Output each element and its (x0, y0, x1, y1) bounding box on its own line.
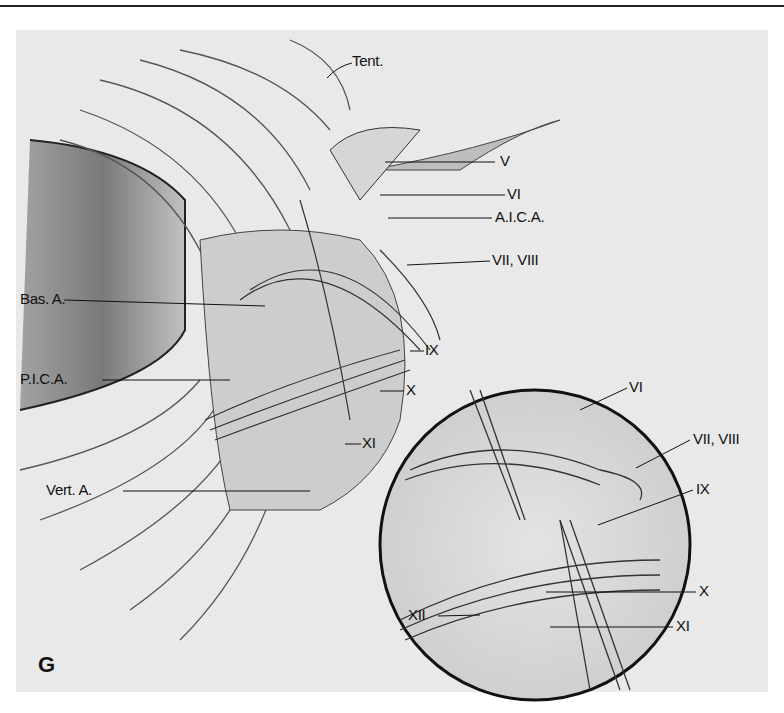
label-cn-v: V (500, 152, 510, 169)
label-tentorium: Tent. (352, 52, 383, 69)
inset-label-cn-x: X (699, 582, 709, 599)
inset-label-cn-vi: VI (629, 378, 643, 395)
label-vertebral-artery: Vert. A. (46, 481, 92, 498)
label-cn-xi: XI (362, 434, 376, 451)
inset-label-cn-xi: XI (676, 617, 690, 634)
inset-label-cn-ix: IX (696, 480, 710, 497)
anatomical-illustration (0, 0, 784, 713)
panel-letter: G (38, 652, 55, 678)
inset-label-cn-vii-viii: VII, VIII (693, 430, 739, 447)
label-cn-vi: VI (507, 185, 521, 202)
label-cn-x: X (406, 381, 416, 398)
inset-label-cn-xii: XII (408, 606, 425, 623)
label-basilar-artery: Bas. A. (20, 290, 65, 307)
label-cn-vii-viii: VII, VIII (492, 251, 538, 268)
label-cn-ix: IX (425, 341, 439, 358)
label-aica: A.I.C.A. (495, 208, 544, 225)
label-pica: P.I.C.A. (20, 370, 67, 387)
